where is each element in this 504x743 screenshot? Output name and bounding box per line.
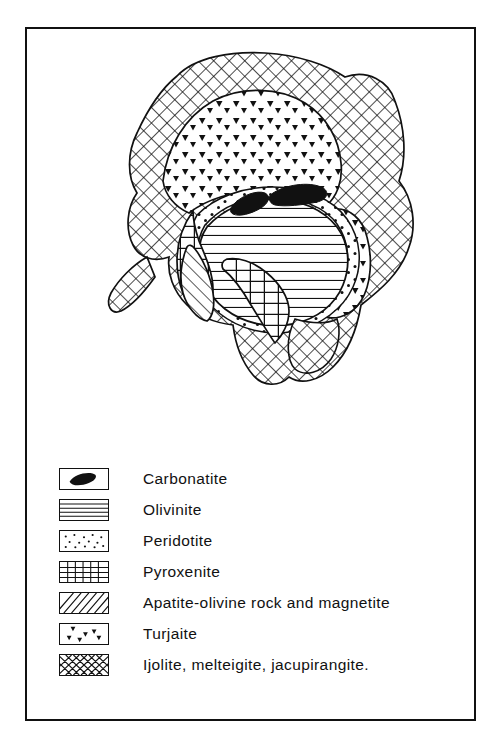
legend-swatch-ijolite: [59, 654, 109, 676]
legend-row-turjaite: Turjaite: [59, 618, 459, 649]
map-legend: Carbonatite Olivinite: [59, 463, 459, 680]
legend-row-ijolite: Ijolite, melteigite, jacupirangite.: [59, 649, 459, 680]
grid-pattern-icon: [60, 562, 108, 582]
cross-hatch-pattern-icon: [60, 655, 108, 675]
horizontal-lines-pattern-icon: [60, 500, 108, 520]
legend-label-pyroxenite: Pyroxenite: [143, 564, 220, 580]
legend-swatch-carbonatite: [59, 468, 109, 490]
legend-row-apatite-olivine: Apatite-olivine rock and magnetite: [59, 587, 459, 618]
legend-row-carbonatite: Carbonatite: [59, 463, 459, 494]
legend-swatch-pyroxenite: [59, 561, 109, 583]
legend-swatch-olivinite: [59, 499, 109, 521]
legend-label-carbonatite: Carbonatite: [143, 471, 228, 487]
legend-row-pyroxenite: Pyroxenite: [59, 556, 459, 587]
legend-row-olivinite: Olivinite: [59, 494, 459, 525]
map-svg: [27, 29, 474, 439]
geological-map: [27, 29, 474, 439]
legend-label-olivinite: Olivinite: [143, 502, 202, 518]
v-marks-pattern-icon: [60, 624, 108, 644]
legend-label-ijolite: Ijolite, melteigite, jacupirangite.: [143, 657, 369, 673]
legend-swatch-peridotite: [59, 530, 109, 552]
figure-frame: Carbonatite Olivinite: [25, 27, 476, 721]
map-unit-ijolite-tail: [109, 257, 155, 312]
legend-label-turjaite: Turjaite: [143, 626, 197, 642]
legend-row-peridotite: Peridotite: [59, 525, 459, 556]
legend-swatch-apatite-olivine: [59, 592, 109, 614]
legend-label-apatite-olivine: Apatite-olivine rock and magnetite: [143, 595, 390, 611]
solid-black-pattern-icon: [60, 469, 108, 489]
legend-swatch-turjaite: [59, 623, 109, 645]
stipple-dots-pattern-icon: [60, 531, 108, 551]
diagonal-hatch-pattern-icon: [60, 593, 108, 613]
legend-label-peridotite: Peridotite: [143, 533, 212, 549]
